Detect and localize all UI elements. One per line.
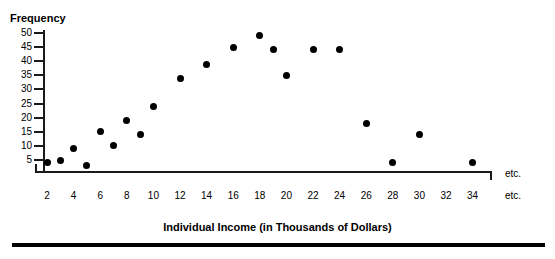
data-point bbox=[137, 131, 144, 138]
y-tick-label-text: 50 bbox=[10, 28, 32, 38]
x-tick-label: 26 bbox=[353, 190, 379, 201]
y-tick-label: 30 bbox=[8, 84, 32, 94]
x-tick-label: 34 bbox=[460, 190, 486, 201]
x-tick-label: 2 bbox=[34, 190, 60, 201]
y-tick-mark bbox=[34, 88, 43, 90]
y-tick-mark bbox=[34, 103, 43, 105]
y-tick-label-text: 25 bbox=[10, 99, 32, 109]
y-tick-label: 35 bbox=[8, 70, 32, 80]
y-tick-label-text: 30 bbox=[10, 84, 32, 94]
data-point bbox=[310, 46, 317, 53]
x-tick-label: 30 bbox=[406, 190, 432, 201]
data-point bbox=[70, 145, 77, 152]
y-tick-mark bbox=[34, 117, 43, 119]
y-tick-label: 45 bbox=[8, 42, 32, 52]
data-point bbox=[363, 120, 370, 127]
y-tick-label: 50 bbox=[8, 28, 32, 38]
x-tick-label: 12 bbox=[167, 190, 193, 201]
x-axis-title: Individual Income (in Thousands of Dolla… bbox=[0, 221, 555, 234]
data-point bbox=[123, 117, 130, 124]
data-point bbox=[83, 162, 90, 169]
y-tick-label-text: 45 bbox=[10, 42, 32, 52]
x-tick-label: 20 bbox=[273, 190, 299, 201]
y-tick-label: 20 bbox=[8, 113, 32, 123]
data-point bbox=[150, 103, 157, 110]
x-tick-label: 6 bbox=[87, 190, 113, 201]
x-tick-label: 10 bbox=[140, 190, 166, 201]
data-point bbox=[469, 159, 476, 166]
y-tick-label: 5 bbox=[8, 155, 32, 165]
y-tick-mark bbox=[34, 60, 43, 62]
x-axis-line bbox=[35, 171, 492, 173]
data-point bbox=[283, 72, 290, 79]
y-tick-mark bbox=[34, 131, 43, 133]
y-tick-label: 40 bbox=[8, 56, 32, 66]
y-tick-label-text: 15 bbox=[10, 127, 32, 137]
y-tick-label-text: 35 bbox=[10, 70, 32, 80]
y-tick-label-text: 20 bbox=[10, 113, 32, 123]
x-axis-right-cap bbox=[490, 171, 492, 180]
y-tick-label-text: 40 bbox=[10, 56, 32, 66]
x-tick-label: 32 bbox=[433, 190, 459, 201]
y-tick-label: 15 bbox=[8, 127, 32, 137]
x-tick-label: 4 bbox=[61, 190, 87, 201]
data-point bbox=[97, 128, 104, 135]
etc-label-bottom: etc. bbox=[505, 190, 521, 201]
data-point bbox=[230, 44, 237, 51]
y-tick-mark bbox=[34, 74, 43, 76]
data-point bbox=[389, 159, 396, 166]
data-point bbox=[57, 157, 64, 164]
etc-label-top: etc. bbox=[505, 168, 521, 179]
x-tick-label: 14 bbox=[194, 190, 220, 201]
data-point bbox=[336, 46, 343, 53]
y-tick-mark bbox=[34, 32, 43, 34]
x-tick-label: 18 bbox=[247, 190, 273, 201]
y-tick-mark bbox=[34, 46, 43, 48]
bottom-divider-rule bbox=[12, 243, 545, 247]
x-tick-label: 8 bbox=[114, 190, 140, 201]
y-tick-label: 10 bbox=[8, 141, 32, 151]
scatter-plot-figure: Frequency 5101520253035404550 2468101214… bbox=[0, 0, 555, 259]
data-point bbox=[203, 61, 210, 68]
data-point bbox=[177, 75, 184, 82]
y-tick-label-text: 10 bbox=[10, 141, 32, 151]
data-point bbox=[44, 159, 51, 166]
x-axis-left-cap bbox=[35, 164, 37, 173]
data-point bbox=[416, 131, 423, 138]
y-tick-mark bbox=[34, 159, 43, 161]
y-tick-label: 25 bbox=[8, 99, 32, 109]
y-axis-line bbox=[43, 30, 45, 172]
x-tick-label: 24 bbox=[327, 190, 353, 201]
x-tick-label: 16 bbox=[220, 190, 246, 201]
y-tick-label-text: 5 bbox=[10, 155, 32, 165]
data-point bbox=[110, 142, 117, 149]
x-tick-label: 28 bbox=[380, 190, 406, 201]
data-point bbox=[256, 32, 263, 39]
data-point bbox=[270, 46, 277, 53]
x-tick-label: 22 bbox=[300, 190, 326, 201]
y-tick-mark bbox=[34, 145, 43, 147]
